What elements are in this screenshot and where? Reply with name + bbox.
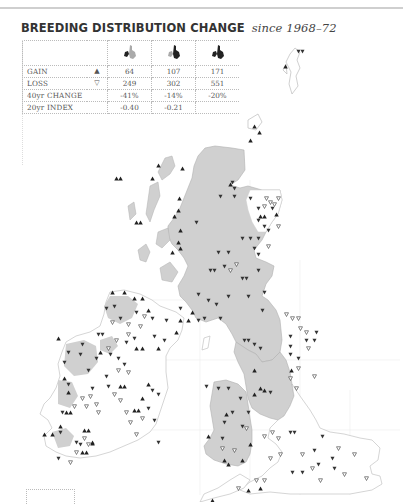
cell-value: 249 bbox=[108, 78, 152, 90]
britain-highlighted-map-icon bbox=[152, 41, 196, 66]
hebrides bbox=[128, 156, 178, 282]
cell-value: 64 bbox=[108, 66, 152, 78]
southwest-england-outline bbox=[200, 474, 250, 502]
cell-value: 171 bbox=[196, 66, 240, 78]
gain-triangle-icon: ▲ bbox=[87, 66, 108, 78]
ireland-highlighted-map-icon bbox=[108, 41, 152, 66]
row-label: LOSS bbox=[23, 78, 88, 90]
cell-value bbox=[196, 102, 240, 114]
shetland-islands bbox=[283, 48, 300, 94]
table-row-40yr-change: 40yr CHANGE -41% -14% -20% bbox=[23, 90, 240, 102]
scotland-occupied bbox=[168, 146, 282, 362]
channel-islands-inset-box bbox=[26, 489, 75, 504]
cell-value: -14% bbox=[152, 90, 196, 102]
cell-value: -41% bbox=[108, 90, 152, 102]
row-label: 20yr INDEX bbox=[23, 102, 88, 114]
cell-value: -0.21 bbox=[152, 102, 196, 114]
wales-occupied bbox=[204, 380, 252, 466]
table-row-20yr-index: 20yr INDEX -0.40 -0.21 bbox=[23, 102, 240, 114]
table-header-row bbox=[23, 41, 240, 66]
cell-value: -20% bbox=[196, 90, 240, 102]
cell-value: 551 bbox=[196, 78, 240, 90]
cell-value: 302 bbox=[152, 78, 196, 90]
loss-triangle-icon: ▽ bbox=[87, 78, 108, 90]
table-row-loss: LOSS ▽ 249 302 551 bbox=[23, 78, 240, 90]
britain-and-ireland-map-icon bbox=[196, 41, 240, 66]
row-label: GAIN bbox=[23, 66, 88, 78]
row-label: 40yr CHANGE bbox=[23, 90, 88, 102]
cell-value: 107 bbox=[152, 66, 196, 78]
stats-table: GAIN ▲ 64 107 171 LOSS ▽ 249 302 551 40y… bbox=[22, 40, 239, 114]
frame-border bbox=[22, 40, 23, 165]
table-row-gain: GAIN ▲ 64 107 171 bbox=[23, 66, 240, 78]
cell-value: -0.40 bbox=[108, 102, 152, 114]
isle-of-man bbox=[202, 336, 210, 350]
